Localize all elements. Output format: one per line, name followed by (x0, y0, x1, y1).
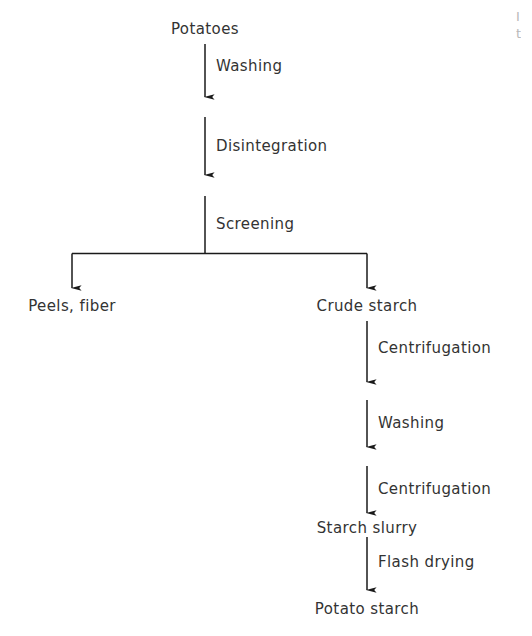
edge-label-disintegration: Disintegration (216, 137, 328, 155)
node-potato-starch: Potato starch (315, 600, 419, 618)
node-crude-starch: Crude starch (317, 297, 418, 315)
clipped-caption-line-2: t (516, 25, 521, 42)
edge-label-centrifugation-2: Centrifugation (378, 480, 491, 498)
edge-label-washing-1: Washing (216, 57, 282, 75)
clipped-caption-line-1: I (516, 8, 520, 25)
flow-connectors (0, 0, 532, 636)
flowchart-page: Potatoes Peels, fiber Crude starch Starc… (0, 0, 532, 636)
node-potatoes: Potatoes (171, 20, 239, 38)
node-starch-slurry: Starch slurry (317, 519, 418, 537)
edge-label-centrifugation-1: Centrifugation (378, 339, 491, 357)
edge-label-flash-drying: Flash drying (378, 553, 475, 571)
node-peels-fiber: Peels, fiber (28, 297, 116, 315)
edge-label-screening: Screening (216, 215, 294, 233)
edge-label-washing-2: Washing (378, 414, 444, 432)
